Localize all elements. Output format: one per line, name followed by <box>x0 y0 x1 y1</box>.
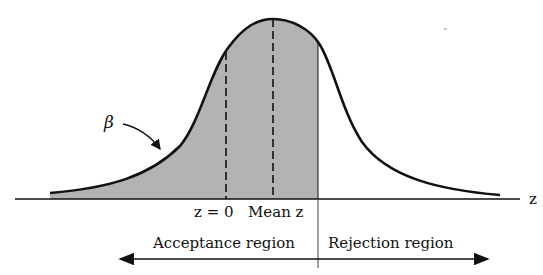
beta-label: β <box>103 112 114 132</box>
beta-error-diagram: z z = 0 Mean z Acceptance region Rejecti… <box>0 0 543 275</box>
z-axis-label: z <box>529 190 537 208</box>
beta-shaded-area <box>50 19 320 199</box>
acceptance-region-label: Acceptance region <box>152 234 295 252</box>
mean-z-label: Mean z <box>248 203 304 221</box>
rejection-region-label: Rejection region <box>328 234 454 252</box>
beta-pointer-arrow <box>123 124 160 149</box>
z0-label: z = 0 <box>194 203 234 221</box>
